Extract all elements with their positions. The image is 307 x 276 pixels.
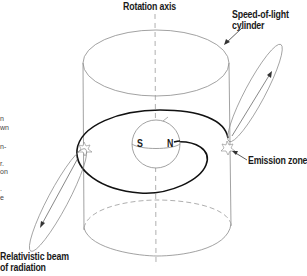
- pole-n-label: N: [167, 138, 173, 149]
- left-beam-arrow: [42, 158, 78, 224]
- speed-of-light-label-line1: Speed-of-light: [232, 9, 289, 20]
- cylinder-bottom-back: [84, 200, 231, 228]
- emission-zone-label: Emission zone: [248, 155, 307, 166]
- right-beam-lobe: [220, 40, 289, 147]
- neutron-star-pole-mark: [163, 117, 168, 121]
- speed-of-light-label-line2: cylinder: [232, 20, 264, 31]
- margin-fragment: wn: [0, 124, 9, 132]
- pulsar-diagram: [0, 0, 307, 276]
- margin-fragment: on: [0, 168, 8, 176]
- pole-s-label: S: [137, 138, 143, 149]
- margin-fragment: n-: [0, 143, 6, 151]
- emission-zone-star-icon: [221, 141, 235, 155]
- rotation-axis-label: Rotation axis: [123, 1, 176, 12]
- cylinder-top: [83, 30, 229, 96]
- margin-fragment: e: [0, 194, 4, 202]
- margin-fragment: n: [0, 115, 4, 123]
- arrowhead: [232, 151, 238, 155]
- margin-fragment: .: [0, 185, 2, 193]
- arrowhead: [40, 221, 45, 228]
- arrowhead: [267, 71, 272, 78]
- beam-label-line1: Relativistic beam: [0, 251, 69, 262]
- margin-fragment: r.: [0, 160, 4, 168]
- beam-label-line2: of radiation: [0, 262, 46, 273]
- cylinder-bottom-front: [84, 224, 231, 256]
